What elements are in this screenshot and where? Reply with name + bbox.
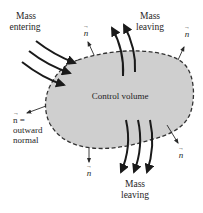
svg-text:entering: entering <box>9 22 40 32</box>
svg-text:n: n <box>185 29 190 39</box>
control-volume-label: Control volume <box>92 91 149 101</box>
mass-leaving-top-label: Mass leaving <box>136 11 164 32</box>
svg-text:leaving: leaving <box>121 190 149 200</box>
normal-label-bottom: → n <box>86 163 92 178</box>
svg-text:n: n <box>87 168 92 178</box>
svg-text:Mass: Mass <box>125 179 145 189</box>
svg-text:normal: normal <box>13 135 39 145</box>
normal-label-top-left: → n <box>83 23 89 38</box>
svg-text:leaving: leaving <box>136 22 164 32</box>
svg-text:Mass: Mass <box>16 11 36 21</box>
normal-arrow-top-right <box>178 47 184 60</box>
svg-text:n: n <box>179 150 184 160</box>
mass-entering-label: Mass entering <box>9 11 40 32</box>
mass-leaving-bottom-label: Mass leaving <box>121 179 149 200</box>
normal-arrow-left <box>27 106 46 113</box>
outward-normal-label: → n = outward normal <box>13 110 43 145</box>
normal-label-bottom-right: → n <box>178 145 184 160</box>
svg-text:n =: n = <box>13 115 25 125</box>
normal-arrow-top-left <box>88 42 94 55</box>
control-volume-diagram: Control volume → n → n → n → n <box>0 0 203 213</box>
svg-text:n: n <box>84 28 89 38</box>
svg-text:Mass: Mass <box>140 11 160 21</box>
svg-text:outward: outward <box>13 125 43 135</box>
normal-label-top-right: → n <box>184 24 190 39</box>
